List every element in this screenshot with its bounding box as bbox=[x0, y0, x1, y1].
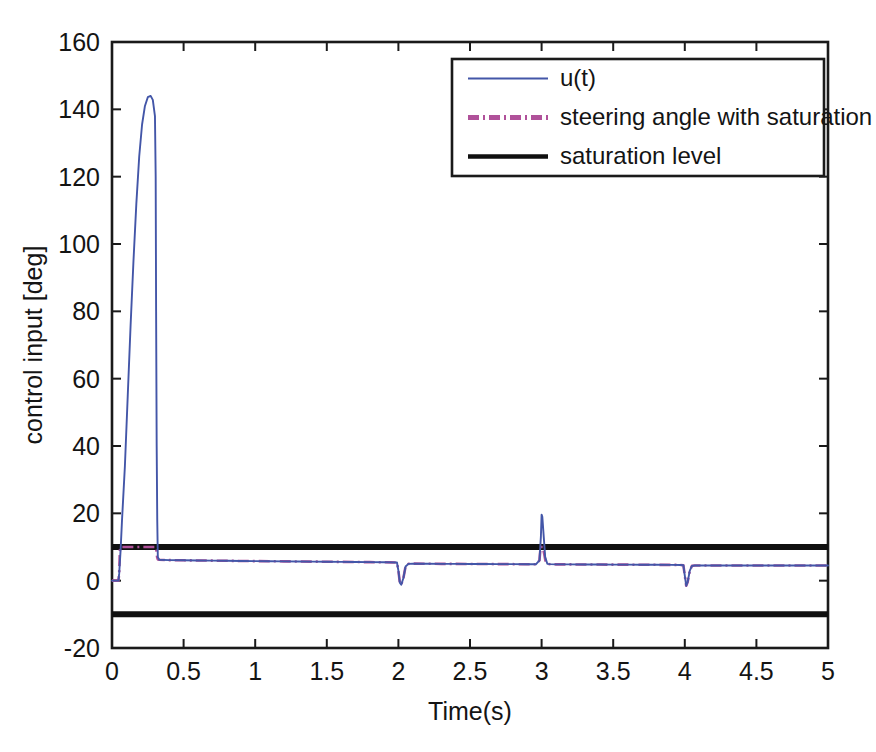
x-tick-label: 4 bbox=[678, 657, 692, 685]
x-tick-label: 2 bbox=[391, 657, 405, 685]
x-tick-label: 3 bbox=[535, 657, 549, 685]
chart-legend: u(t)steering angle with saturationsatura… bbox=[452, 59, 872, 176]
x-tick-label: 5 bbox=[821, 657, 835, 685]
y-tick-label: 100 bbox=[58, 230, 100, 258]
legend-label-1: u(t) bbox=[560, 64, 596, 91]
x-tick-label: 0.5 bbox=[166, 657, 201, 685]
y-tick-label: 40 bbox=[72, 432, 100, 460]
y-axis-title: control input [deg] bbox=[19, 246, 47, 445]
x-tick-label: 1 bbox=[248, 657, 262, 685]
y-tick-label: 160 bbox=[58, 28, 100, 56]
x-axis-title: Time(s) bbox=[428, 697, 512, 725]
y-tick-label: 80 bbox=[72, 297, 100, 325]
y-tick-label: 120 bbox=[58, 163, 100, 191]
y-tick-label: 0 bbox=[86, 567, 100, 595]
x-tick-label: 1.5 bbox=[309, 657, 344, 685]
control-input-chart: 00.511.522.533.544.55-200204060801001201… bbox=[0, 0, 876, 752]
y-tick-label: 140 bbox=[58, 95, 100, 123]
x-tick-label: 3.5 bbox=[596, 657, 631, 685]
figure-root: 00.511.522.533.544.55-200204060801001201… bbox=[0, 0, 876, 752]
x-tick-label: 0 bbox=[105, 657, 119, 685]
x-tick-label: 4.5 bbox=[739, 657, 774, 685]
y-tick-label: 20 bbox=[72, 499, 100, 527]
legend-label-3: saturation level bbox=[560, 142, 721, 169]
legend-label-2: steering angle with saturation bbox=[560, 103, 872, 130]
y-tick-label: 60 bbox=[72, 365, 100, 393]
y-tick-label: -20 bbox=[64, 634, 100, 662]
x-tick-label: 2.5 bbox=[453, 657, 488, 685]
